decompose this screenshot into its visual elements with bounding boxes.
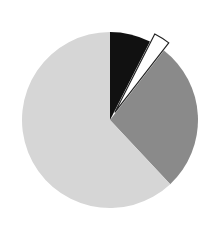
pie-slices <box>22 32 198 208</box>
pie-chart <box>0 0 211 227</box>
